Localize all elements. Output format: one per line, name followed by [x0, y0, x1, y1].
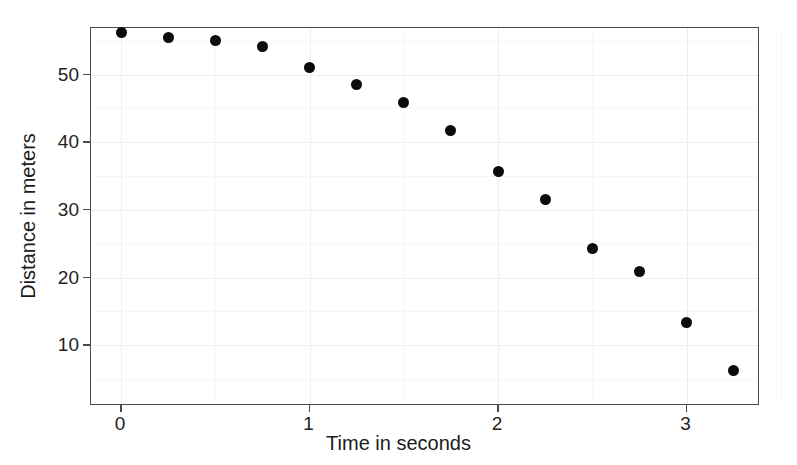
y-axis-tick-label: 20 [39, 268, 79, 287]
y-axis-tick-mark [83, 209, 90, 211]
gridline-horizontal-minor [91, 244, 758, 245]
data-point [398, 97, 409, 108]
data-point [257, 41, 268, 52]
x-axis-title: Time in seconds [0, 432, 797, 455]
gridline-horizontal-major [91, 75, 758, 76]
gridline-horizontal-minor [91, 379, 758, 380]
x-axis-tick-mark [120, 405, 122, 412]
gridline-horizontal-minor [91, 176, 758, 177]
y-axis-tick-label: 10 [39, 335, 79, 354]
data-point [681, 317, 692, 328]
x-axis-tick-mark [497, 405, 499, 412]
x-axis-tick-mark [686, 405, 688, 412]
gridline-vertical-minor [215, 28, 216, 404]
gridline-horizontal-major [91, 142, 758, 143]
gridline-vertical-major [310, 28, 311, 404]
data-point [587, 243, 598, 254]
y-axis-tick-label: 40 [39, 132, 79, 151]
y-axis-tick-mark [83, 141, 90, 143]
x-axis-tick-label: 2 [477, 414, 517, 433]
data-point [493, 166, 504, 177]
data-point [445, 125, 456, 136]
data-point [210, 35, 221, 46]
gridline-vertical-minor [592, 28, 593, 404]
y-axis-title: Distance in meters [17, 133, 40, 299]
x-axis-tick-label: 0 [100, 414, 140, 433]
gridline-vertical-major [498, 28, 499, 404]
gridline-horizontal-major [91, 345, 758, 346]
data-point [163, 32, 174, 43]
data-point [116, 27, 127, 38]
data-point [634, 266, 645, 277]
data-point [728, 365, 739, 376]
plot-area [90, 27, 759, 405]
gridline-horizontal-major [91, 210, 758, 211]
gridline-vertical-major [121, 28, 122, 404]
data-point [304, 62, 315, 73]
data-point [351, 79, 362, 90]
x-axis-tick-label: 1 [289, 414, 329, 433]
gridline-vertical-minor [781, 28, 782, 404]
y-axis-tick-label: 30 [39, 200, 79, 219]
gridline-vertical-minor [404, 28, 405, 404]
gridline-horizontal-minor [91, 41, 758, 42]
gridline-horizontal-major [91, 278, 758, 279]
x-axis-tick-label: 3 [666, 414, 706, 433]
scatter-plot-figure: 1020304050 0123 Time in seconds Distance… [0, 0, 797, 465]
gridline-vertical-major [687, 28, 688, 404]
data-point [540, 194, 551, 205]
y-axis-tick-mark [83, 277, 90, 279]
x-axis-tick-mark [309, 405, 311, 412]
y-axis-tick-label: 50 [39, 65, 79, 84]
gridline-horizontal-minor [91, 108, 758, 109]
gridline-horizontal-minor [91, 311, 758, 312]
y-axis-tick-mark [83, 74, 90, 76]
y-axis-tick-mark [83, 344, 90, 346]
